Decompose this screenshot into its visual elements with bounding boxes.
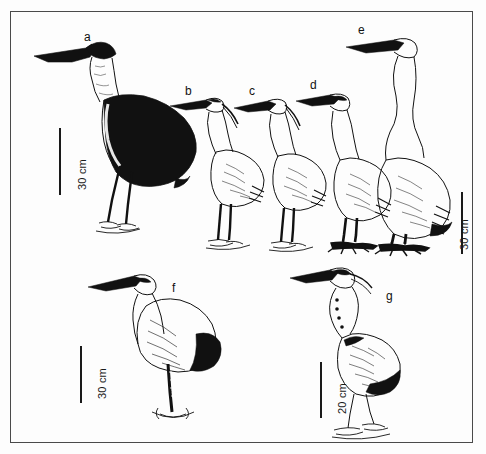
scale-bar-g-line (320, 362, 322, 418)
scale-bar-f-line (80, 346, 82, 403)
scale-bar-a-label: 30 cm (76, 159, 88, 190)
scale-bar-a-line (59, 128, 61, 195)
scale-bar-f-label: 30 cm (96, 368, 108, 399)
scale-bar-g-label: 20 cm (336, 383, 348, 414)
figure-plate: a b c d e f g 30 cm 30 cm 30 cm 20 cm (0, 0, 486, 454)
panel-label-g: g (386, 290, 393, 302)
panel-label-e: e (358, 24, 365, 36)
panel-label-c: c (249, 85, 255, 97)
panel-label-b: b (185, 85, 192, 97)
panel-label-f: f (172, 282, 175, 294)
scale-bar-bcde-label: 30 cm (458, 219, 470, 250)
panel-label-d: d (310, 79, 317, 91)
panel-label-a: a (84, 31, 91, 43)
